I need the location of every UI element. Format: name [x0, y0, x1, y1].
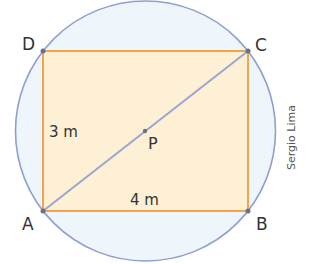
center-p-dot — [143, 129, 147, 133]
geometry-figure: D C A B P 3 m 4 m Sergio Lima — [0, 0, 311, 264]
vertex-b-dot — [246, 209, 251, 214]
width-measure: 4 m — [130, 191, 159, 209]
label-c: C — [255, 35, 267, 55]
vertex-c-dot — [246, 49, 251, 54]
photo-credit: Sergio Lima — [285, 105, 298, 170]
vertex-d-dot — [41, 49, 46, 54]
vertex-a-dot — [41, 209, 46, 214]
label-b: B — [256, 214, 268, 234]
height-measure: 3 m — [49, 123, 78, 141]
label-d: D — [22, 34, 35, 54]
label-a: A — [22, 214, 34, 234]
label-p: P — [148, 134, 158, 153]
